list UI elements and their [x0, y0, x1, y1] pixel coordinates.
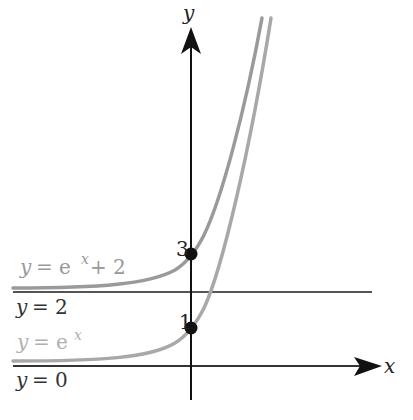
exponential-graph: y x 3 1 y = e x + 2 y = 2 y = e x y = 0 — [0, 0, 413, 420]
svg-text:= e: = e — [33, 330, 68, 354]
svg-text:x: x — [81, 251, 89, 267]
point-1-label: 1 — [179, 310, 192, 334]
asymptote-y0-label: y = 0 — [15, 368, 68, 392]
svg-text:= 2: = 2 — [32, 295, 68, 319]
x-axis-label: x — [384, 354, 395, 378]
curve-shifted-label: y = e x + 2 — [19, 251, 126, 279]
svg-text:y: y — [15, 295, 28, 319]
svg-text:= 0: = 0 — [32, 368, 68, 392]
svg-text:= e: = e — [36, 255, 71, 279]
point-3-label: 3 — [176, 237, 189, 261]
curve-base-label: y = e x — [16, 327, 82, 354]
y-axis-label: y — [182, 1, 195, 25]
svg-text:y: y — [15, 368, 28, 392]
svg-text:x: x — [74, 327, 82, 343]
svg-text:y: y — [16, 330, 29, 354]
svg-text:y: y — [19, 255, 32, 279]
asymptote-y2-label: y = 2 — [15, 295, 68, 319]
svg-text:+ 2: + 2 — [90, 255, 126, 279]
